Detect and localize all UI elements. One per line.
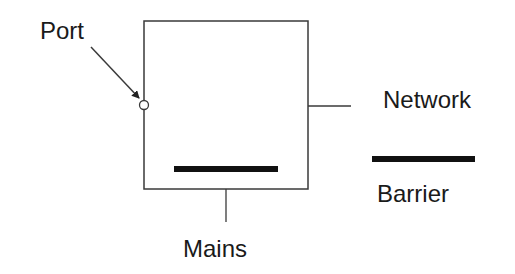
port-arrow	[91, 47, 139, 98]
port-label: Port	[40, 17, 84, 44]
barrier-label: Barrier	[377, 180, 449, 207]
network-label: Network	[383, 86, 472, 113]
equipment-port-diagram: Port Network Barrier Mains	[0, 0, 515, 274]
mains-label: Mains	[183, 235, 247, 262]
port-circle	[140, 101, 149, 110]
device-box	[144, 21, 308, 189]
